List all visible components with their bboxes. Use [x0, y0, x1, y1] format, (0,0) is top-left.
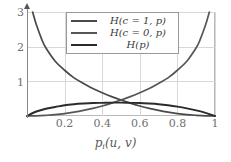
- x-axis-label: pi(u, v): [0, 136, 231, 151]
- y-axis-arrow-icon: [24, 3, 30, 9]
- legend-swatch-h-c0: [71, 32, 97, 34]
- gridline-vertical: [215, 12, 216, 116]
- y-tick-3: 3: [2, 7, 24, 18]
- y-tick-2: 2: [2, 42, 24, 53]
- x-tick-0-6: 0.6: [120, 118, 160, 129]
- legend-entry-h-p: H(p): [71, 39, 174, 51]
- x-tick-0-8: 0.8: [157, 118, 197, 129]
- entropy-chart-figure: 3 2 1 0.2 0.4 0.6 0.8 1 pi(u, v) H(c = 1…: [0, 0, 231, 162]
- legend: H(c = 1, p) H(c = 0, p) H(p): [66, 12, 179, 54]
- y-axis-line: [27, 6, 28, 118]
- x-tick-0-4: 0.4: [82, 118, 122, 129]
- x-axis-label-args: (u, v): [105, 136, 137, 150]
- x-tick-0-2: 0.2: [45, 118, 85, 129]
- legend-entry-h-c1: H(c = 1, p): [71, 15, 174, 27]
- legend-entry-h-c0: H(c = 0, p): [71, 27, 174, 39]
- x-tick-1: 1: [195, 118, 231, 129]
- legend-label-h-p: H(p): [102, 40, 174, 50]
- legend-label-h-c0: H(c = 0, p): [102, 28, 174, 38]
- legend-swatch-h-p: [71, 44, 97, 46]
- legend-label-h-c1: H(c = 1, p): [102, 16, 174, 26]
- y-tick-1: 1: [2, 77, 24, 88]
- legend-swatch-h-c1: [71, 20, 97, 22]
